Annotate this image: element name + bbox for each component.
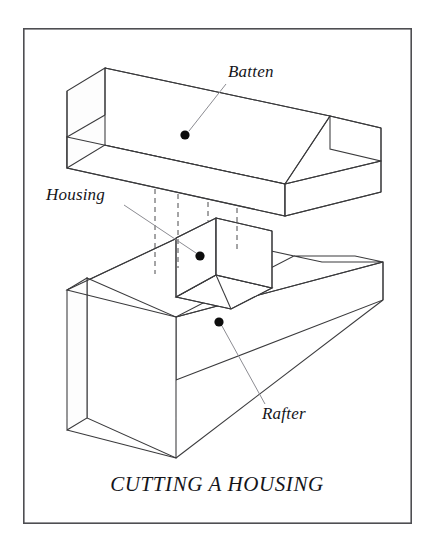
label-rafter: Rafter — [261, 404, 306, 423]
marker-dot-batten — [180, 130, 189, 139]
label-batten: Batten — [228, 62, 274, 81]
marker-dot-housing — [195, 251, 204, 260]
marker-dot-rafter — [214, 317, 223, 326]
figure-root: Batten Housing Rafter CUTTING A HOUSING — [0, 0, 434, 551]
rafter-left-end-face — [67, 278, 87, 430]
figure-caption: CUTTING A HOUSING — [110, 472, 324, 496]
housing-notch — [176, 218, 272, 309]
label-housing: Housing — [45, 185, 105, 204]
cutting-a-housing-diagram: Batten Housing Rafter CUTTING A HOUSING — [0, 0, 434, 551]
